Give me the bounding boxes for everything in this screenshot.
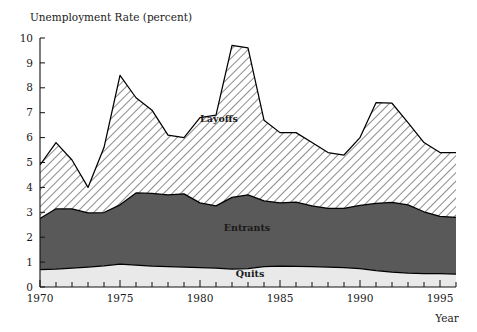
y-tick-label: 10 xyxy=(20,32,33,44)
chart-canvas: Unemployment Rate (percent) 012345678910… xyxy=(0,0,477,332)
y-tick-label: 0 xyxy=(26,281,33,293)
y-tick-label: 3 xyxy=(26,206,33,218)
y-tick-label: 1 xyxy=(26,256,33,268)
y-tick-label: 9 xyxy=(26,57,33,69)
y-tick-label: 2 xyxy=(26,231,33,243)
x-tick-label: 1990 xyxy=(347,292,374,304)
y-axis-title: Unemployment Rate (percent) xyxy=(30,11,192,23)
y-tick-label: 8 xyxy=(26,81,33,93)
series-label-quits: Quits xyxy=(236,268,265,279)
x-axis-title: Year xyxy=(434,312,459,324)
x-axis-tick-labels: 197019751980198519901995 xyxy=(27,292,454,304)
series-label-entrants: Entrants xyxy=(224,222,270,233)
x-tick-label: 1995 xyxy=(427,292,454,304)
x-tick-label: 1975 xyxy=(107,292,134,304)
x-tick-label: 1980 xyxy=(187,292,214,304)
y-tick-label: 7 xyxy=(26,106,33,118)
x-tick-label: 1970 xyxy=(27,292,54,304)
series-label-layoffs: Layoffs xyxy=(200,113,238,124)
stacked-area-bands xyxy=(40,45,456,287)
y-tick-label: 4 xyxy=(26,181,33,193)
y-axis-tick-labels: 012345678910 xyxy=(20,32,34,293)
area-band-layoffs xyxy=(40,45,456,218)
x-tick-label: 1985 xyxy=(267,292,294,304)
unemployment-rate-stacked-area-chart: Unemployment Rate (percent) 012345678910… xyxy=(0,0,477,332)
y-tick-label: 6 xyxy=(26,131,33,143)
y-tick-label: 5 xyxy=(26,156,33,168)
